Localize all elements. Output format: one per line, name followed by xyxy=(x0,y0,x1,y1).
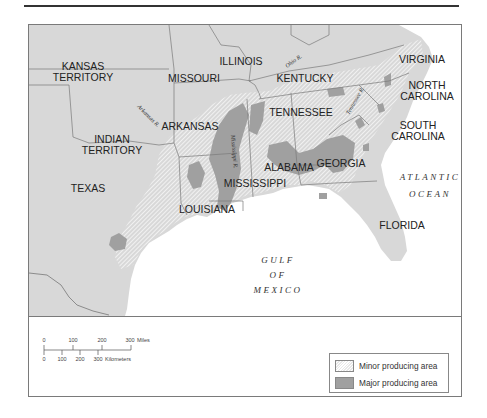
map-figure: KANSASTERRITORY MISSOURI ILLINOIS KENTUC… xyxy=(28,24,462,397)
scale-mi-200: 200 xyxy=(97,337,106,343)
scale-ticks-miles: 0 100 200 300 Miles xyxy=(42,337,150,343)
label-kentucky: KENTUCKY xyxy=(276,72,333,84)
lake-okeechobee xyxy=(376,268,392,282)
label-georgia: GEORGIA xyxy=(316,157,365,169)
svg-text:KANSASTERRITORY: KANSASTERRITORY xyxy=(53,60,113,83)
legend: Minor producing area Major producing are… xyxy=(329,353,449,393)
solid-swatch-icon xyxy=(335,377,354,389)
legend-item-minor: Minor producing area xyxy=(335,359,437,372)
label-ocean: OCEAN xyxy=(409,189,451,199)
label-tennessee: TENNESSEE xyxy=(269,106,333,118)
map-svg: KANSASTERRITORY MISSOURI ILLINOIS KENTUC… xyxy=(29,25,461,316)
scale-mi-300: 300 xyxy=(125,337,134,343)
scale-km-unit: Kilometers xyxy=(105,356,131,362)
label-alabama: ALABAMA xyxy=(264,161,314,173)
hatched-swatch-icon xyxy=(335,360,354,372)
legend-label-minor: Minor producing area xyxy=(359,361,437,371)
label-florida: FLORIDA xyxy=(379,219,425,231)
label-arkansas: ARKANSAS xyxy=(161,120,218,132)
label-atlantic: ATLANTIC xyxy=(399,172,461,182)
scale-bar: 0 100 200 300 Miles 0 100 200 300 xyxy=(29,317,229,397)
label-texas: TEXAS xyxy=(71,182,105,194)
scale-mi-100: 100 xyxy=(68,337,77,343)
label-gulf: GULF xyxy=(261,255,295,265)
scale-ticks-km: 0 100 200 300 Kilometers xyxy=(42,356,131,362)
label-of: OF xyxy=(270,270,287,280)
legend-item-major: Major producing area xyxy=(335,376,437,389)
label-mexico: MEXICO xyxy=(253,285,303,295)
label-mississippi: MISSISSIPPI xyxy=(224,177,286,189)
label-virginia: VIRGINIA xyxy=(399,53,445,65)
label-louisiana: LOUISIANA xyxy=(179,203,235,215)
label-missouri: MISSOURI xyxy=(168,72,220,84)
scale-km-100: 100 xyxy=(57,356,66,362)
label-kansas-territory-2: TERRITORY xyxy=(53,71,113,83)
label-illinois: ILLINOIS xyxy=(219,55,262,67)
scale-km-300: 300 xyxy=(93,356,102,362)
scale-km-200: 200 xyxy=(75,356,84,362)
scale-lines xyxy=(44,345,131,355)
scale-mi-0: 0 xyxy=(42,337,45,343)
label-indian-territory-2: TERRITORY xyxy=(82,144,142,156)
label-south-carolina-2: CAROLINA xyxy=(391,130,445,142)
map-canvas: KANSASTERRITORY MISSOURI ILLINOIS KENTUC… xyxy=(29,25,461,317)
top-rule xyxy=(24,5,459,7)
label-north-carolina-2: CAROLINA xyxy=(400,90,454,102)
legend-label-major: Major producing area xyxy=(359,378,437,388)
scale-mi-unit: Miles xyxy=(137,337,150,343)
scale-km-0: 0 xyxy=(42,356,45,362)
